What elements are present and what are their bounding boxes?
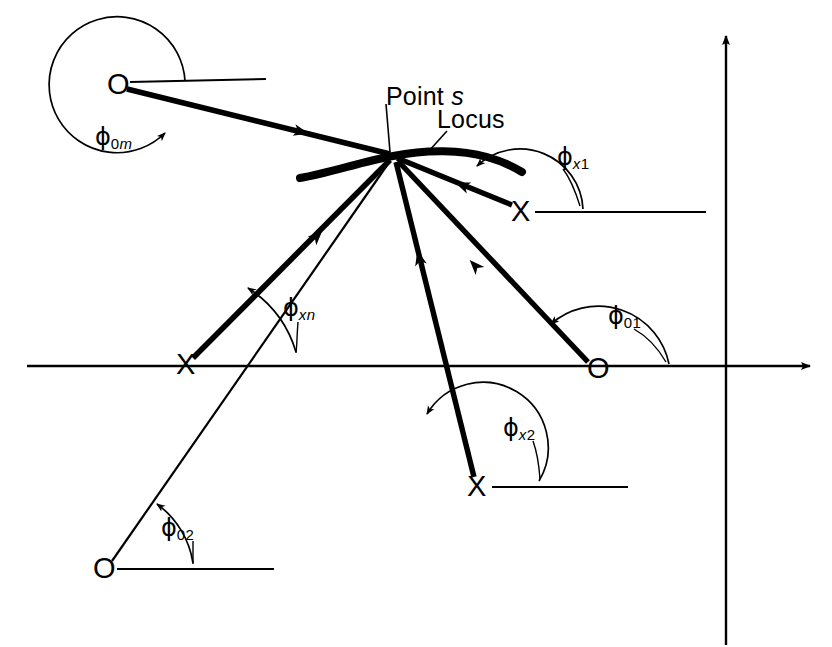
reference-line-zero-upper-left — [130, 79, 266, 82]
marker-zero-upper-left[interactable]: O — [107, 70, 130, 99]
phi-subscript-italic: m — [120, 135, 133, 152]
vector-pole-lower-to-s — [396, 162, 474, 477]
marker-zero-right[interactable]: O — [587, 354, 610, 383]
phi-symbol: ϕ — [608, 302, 624, 330]
phi-symbol: ϕ — [161, 514, 177, 542]
angle-leader-phi-x2 — [533, 441, 540, 479]
locus-label: Locus — [437, 107, 505, 132]
arrowhead-zero-right — [465, 256, 484, 275]
phi-symbol: ϕ — [95, 123, 111, 151]
vectors-group — [112, 89, 588, 561]
phi-subscript-italic: x — [573, 155, 581, 172]
marker-pole-left[interactable]: X — [176, 350, 195, 379]
phi-subscript: x2 — [519, 426, 535, 443]
phi-subscript-plain: 2 — [527, 426, 536, 443]
phi-subscript-plain: 02 — [177, 526, 194, 543]
vector-zero-upper-left-to-s — [127, 89, 390, 154]
phi-subscript: 02 — [177, 526, 194, 543]
phi-subscript-plain: 1 — [581, 155, 590, 172]
vector-zero-right-to-s — [398, 161, 588, 362]
angle-leader-phi-01 — [634, 329, 666, 362]
vector-pole-left-to-s — [193, 160, 390, 358]
leader-point-s — [386, 104, 390, 152]
angle-label-phi-x2: ϕx2 — [503, 416, 535, 442]
phi-symbol: ϕ — [557, 143, 573, 171]
marker-pole-lower[interactable]: X — [467, 472, 486, 501]
phi-subscript: x1 — [573, 155, 589, 172]
phi-subscript-italic: x — [519, 426, 527, 443]
axes-group — [27, 36, 810, 645]
angle-leader-phi-xn — [296, 322, 298, 353]
angle-arcs-group — [49, 17, 669, 564]
phi-symbol: ϕ — [503, 414, 519, 442]
phi-subscript: 01 — [624, 314, 641, 331]
angle-label-phi-xn: ϕxn — [283, 296, 315, 322]
angle-label-phi-x1: ϕx1 — [557, 145, 589, 171]
marker-zero-lower-left[interactable]: O — [93, 554, 116, 583]
phi-subscript-plain: 0 — [111, 135, 120, 152]
marker-pole-upper-right[interactable]: X — [511, 197, 530, 226]
phi-symbol: ϕ — [283, 294, 299, 322]
phi-subscript-plain: 01 — [624, 314, 641, 331]
vector-zero-lower-left-to-s — [112, 161, 390, 561]
angle-label-phi-0m: ϕ0m — [95, 125, 132, 151]
phi-subscript: xn — [299, 306, 315, 323]
angle-label-phi-01: ϕ01 — [608, 304, 641, 330]
root-locus-figure: O X X O X O Point s Locus ϕ0m ϕx1 ϕ01 ϕx… — [0, 0, 832, 647]
vector-arrowheads-group — [293, 124, 485, 275]
phi-subscript-italic: xn — [299, 306, 315, 323]
angle-label-phi-02: ϕ02 — [161, 516, 194, 542]
phi-subscript: 0m — [111, 135, 132, 152]
